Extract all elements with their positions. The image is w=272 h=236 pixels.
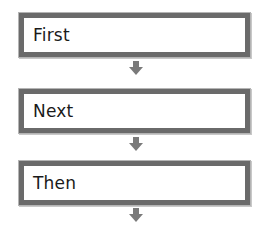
step-label: Then (33, 173, 76, 193)
step-box-next: Next (19, 89, 250, 133)
down-arrow-icon (129, 137, 143, 151)
step-box-then: Then (19, 161, 250, 205)
step-label: First (33, 25, 70, 45)
step-label: Next (33, 101, 73, 121)
down-arrow-icon (129, 61, 143, 75)
step-box-first: First (19, 13, 250, 57)
down-arrow-icon (129, 208, 143, 222)
